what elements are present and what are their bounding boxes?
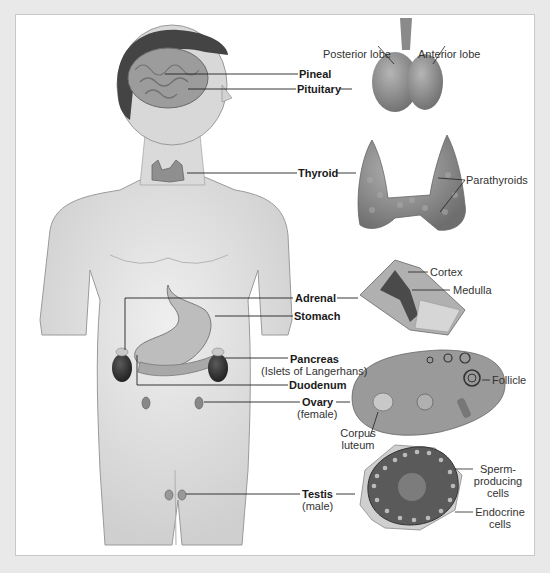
pituitary-detail: [372, 18, 445, 112]
label-endocrine-cells-2: cells: [472, 518, 528, 530]
label-testis: Testis: [302, 488, 333, 500]
label-anterior-lobe: Anterior lobe: [418, 48, 480, 60]
label-corpus-luteum-1: Corpus: [338, 427, 378, 439]
label-stomach: Stomach: [294, 310, 340, 322]
label-pancreas-sub: (Islets of Langerhans): [261, 365, 367, 377]
label-pancreas: Pancreas: [290, 353, 339, 365]
label-sperm-cells-3: cells: [472, 487, 524, 499]
ovary-detail: [352, 350, 505, 437]
testis-detail: [360, 445, 473, 530]
label-endocrine-cells-1: Endocrine: [472, 506, 528, 518]
label-follicle: Follicle: [492, 374, 526, 386]
label-sperm-cells-2: producing: [472, 475, 524, 487]
label-thyroid: Thyroid: [298, 167, 338, 179]
label-pineal: Pineal: [299, 68, 331, 80]
label-ovary-sub: (female): [297, 408, 337, 420]
thyroid-detail: [358, 135, 465, 230]
label-medulla: Medulla: [453, 284, 492, 296]
label-parathyroids: Parathyroids: [466, 174, 528, 186]
label-adrenal: Adrenal: [295, 292, 336, 304]
label-cortex: Cortex: [430, 266, 462, 278]
label-posterior-lobe: Posterior lobe: [323, 48, 391, 60]
label-sperm-cells-1: Sperm-: [472, 463, 524, 475]
label-ovary: Ovary: [302, 396, 333, 408]
human-figure: [40, 25, 292, 545]
label-pituitary: Pituitary: [297, 83, 341, 95]
label-corpus-luteum-2: luteum: [338, 439, 378, 451]
label-testis-sub: (male): [302, 500, 333, 512]
label-duodenum: Duodenum: [289, 379, 346, 391]
